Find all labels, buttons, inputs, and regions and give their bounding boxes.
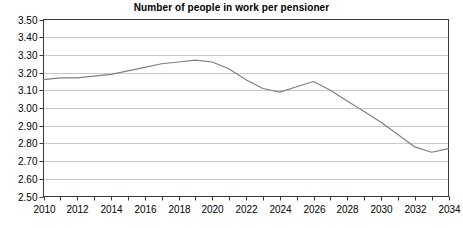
y-tick-label: 3.10 bbox=[18, 85, 38, 96]
y-axis-ticks bbox=[40, 21, 44, 198]
x-tick-label: 2026 bbox=[303, 204, 326, 215]
y-axis-labels: 3.503.403.303.203.103.002.902.802.702.60… bbox=[18, 15, 38, 203]
x-tick-label: 2018 bbox=[168, 204, 191, 215]
grid-lines bbox=[44, 38, 449, 180]
x-tick-label: 2028 bbox=[336, 204, 359, 215]
x-tick-label: 2024 bbox=[269, 204, 292, 215]
y-tick-label: 2.80 bbox=[18, 138, 38, 149]
x-tick-label: 2016 bbox=[134, 204, 157, 215]
y-tick-label: 3.50 bbox=[18, 15, 38, 26]
y-tick-label: 3.40 bbox=[18, 32, 38, 43]
x-tick-label: 2030 bbox=[370, 204, 393, 215]
x-tick-label: 2022 bbox=[235, 204, 258, 215]
x-tick-label: 2034 bbox=[438, 204, 461, 215]
x-tick-label: 2014 bbox=[100, 204, 123, 215]
x-tick-label: 2032 bbox=[404, 204, 427, 215]
y-tick-label: 2.90 bbox=[18, 121, 38, 132]
x-axis-labels: 2010201220142016201820202022202420262028… bbox=[33, 204, 461, 215]
y-tick-label: 2.60 bbox=[18, 174, 38, 185]
y-tick-label: 2.70 bbox=[18, 156, 38, 167]
x-tick-label: 2020 bbox=[201, 204, 224, 215]
x-axis-ticks bbox=[45, 197, 450, 201]
chart-figure: Number of people in work per pensioner 3… bbox=[0, 0, 463, 228]
y-tick-label: 2.50 bbox=[18, 192, 38, 203]
y-tick-label: 3.20 bbox=[18, 68, 38, 79]
x-tick-label: 2010 bbox=[33, 204, 56, 215]
line-chart-plot: 3.503.403.303.203.103.002.902.802.702.60… bbox=[0, 0, 463, 228]
y-tick-label: 3.00 bbox=[18, 103, 38, 114]
x-tick-label: 2012 bbox=[66, 204, 89, 215]
y-tick-label: 3.30 bbox=[18, 50, 38, 61]
data-series-line bbox=[44, 60, 449, 152]
